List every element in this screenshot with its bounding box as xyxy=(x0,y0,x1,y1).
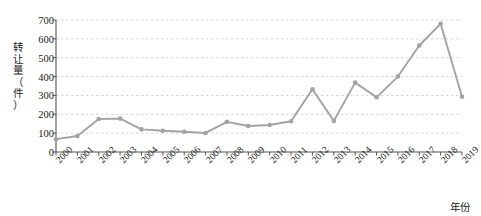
data-point xyxy=(96,117,101,122)
data-point xyxy=(75,134,80,139)
data-point xyxy=(246,124,251,129)
data-point xyxy=(225,120,230,125)
data-point xyxy=(182,130,187,135)
data-markers xyxy=(54,21,465,141)
data-point xyxy=(139,127,144,132)
data-point xyxy=(118,116,123,121)
data-point xyxy=(396,74,401,79)
data-point xyxy=(417,43,422,48)
data-line-series-0 xyxy=(56,24,462,139)
data-point xyxy=(460,94,465,99)
x-axis-title: 年份 xyxy=(450,199,470,214)
data-point xyxy=(289,119,294,124)
data-point xyxy=(353,80,358,85)
data-point xyxy=(54,137,59,142)
gridlines xyxy=(56,20,462,133)
data-point xyxy=(310,87,315,92)
axis-lines xyxy=(56,20,462,152)
data-point xyxy=(438,21,443,26)
data-point xyxy=(203,131,208,136)
data-point xyxy=(374,95,379,100)
data-point xyxy=(267,123,272,128)
data-point xyxy=(161,128,166,133)
data-point xyxy=(331,119,336,124)
